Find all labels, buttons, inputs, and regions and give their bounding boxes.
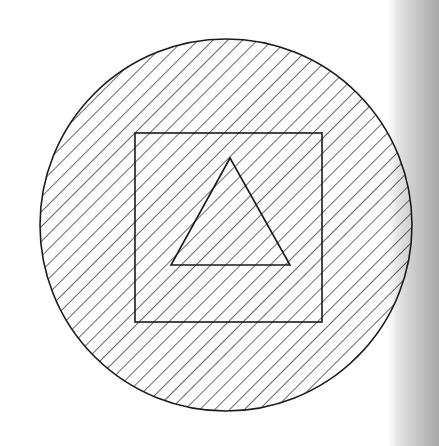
hatched-circle [40, 39, 412, 411]
diagram-figure [0, 0, 439, 446]
